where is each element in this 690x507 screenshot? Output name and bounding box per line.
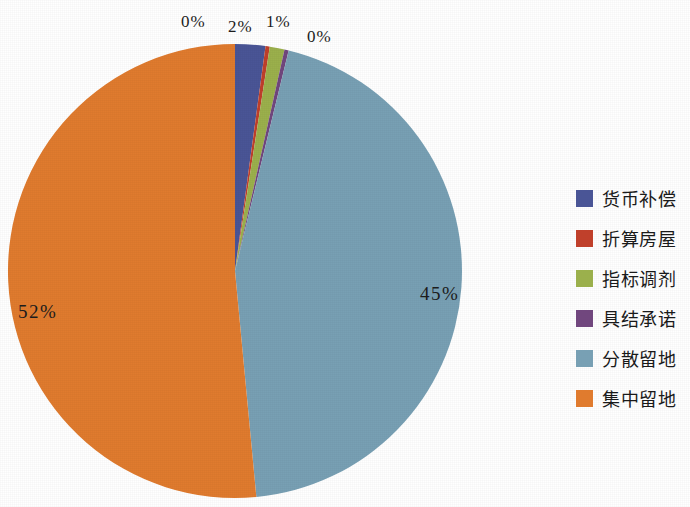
legend-swatch-icon [576,270,593,287]
legend-label: 具结承诺 [602,305,676,331]
legend-label: 指标调剂 [602,265,676,291]
legend-label: 折算房屋 [602,225,676,251]
legend-item-huobibuchang[interactable]: 货币补偿 [576,178,690,218]
legend-item-jizhongliudi[interactable]: 集中留地 [576,378,690,418]
legend-swatch-icon [576,230,593,247]
pie-label-jizhongliudi: 52% [18,301,57,323]
legend-item-jujiechengnuo[interactable]: 具结承诺 [576,298,690,338]
pie-chart-figure: 0% 2% 1% 0% 45% 52% 货币补偿 折算房屋 指标调剂 具结承诺 … [0,0,690,507]
pie-label-huobibuchang: 2% [228,17,253,37]
pie-svg [0,0,520,507]
legend-swatch-icon [576,310,593,327]
legend: 货币补偿 折算房屋 指标调剂 具结承诺 分散留地 集中留地 [576,178,690,418]
pie-label-zhibiaotiaoji: 1% [266,12,291,32]
pie-slices-group [8,44,462,498]
pie-label-zhesuanfangwu: 0% [181,12,206,32]
pie-plot-area [0,0,520,507]
legend-item-zhibiaotiaoji[interactable]: 指标调剂 [576,258,690,298]
pie-label-fensanliudi: 45% [420,283,459,305]
legend-item-fensanliudi[interactable]: 分散留地 [576,338,690,378]
legend-label: 集中留地 [602,385,676,411]
legend-swatch-icon [576,390,593,407]
legend-label: 分散留地 [602,345,676,371]
pie-label-jujiechengnuo: 0% [307,27,332,47]
legend-swatch-icon [576,190,593,207]
legend-swatch-icon [576,350,593,367]
pie-slice-jizhongliudi[interactable] [8,44,256,498]
legend-label: 货币补偿 [602,185,676,211]
legend-item-zhesuanfangwu[interactable]: 折算房屋 [576,218,690,258]
